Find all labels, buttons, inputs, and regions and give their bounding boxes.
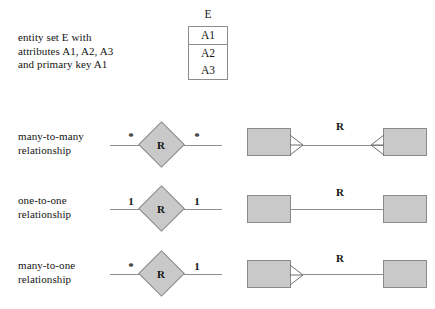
- er-relationship-label-row3: R: [138, 268, 184, 280]
- er-left-cardinality-row2: 1: [124, 195, 138, 207]
- uml-entity-box-left-row3: [247, 260, 291, 288]
- er-left-cardinality-row3: *: [124, 260, 138, 272]
- uml-entity-box-right-row1: [383, 128, 427, 156]
- entity-primary-key-cell: A1: [189, 27, 227, 45]
- uml-relationship-line-row2: [291, 209, 383, 210]
- entity-attribute-box: A1 A2 A3: [188, 26, 228, 80]
- row-caption-one-to-one: one-to-one relationship: [18, 194, 138, 221]
- entity-name-label: E: [187, 8, 229, 20]
- row-caption-many-to-many: many-to-many relationship: [18, 130, 138, 157]
- uml-relationship-label-row2: R: [325, 186, 355, 198]
- row-caption-many-to-one: many-to-one relationship: [18, 259, 138, 286]
- er-right-cardinality-row2: 1: [190, 195, 204, 207]
- uml-relationship-label-row1: R: [325, 120, 355, 132]
- crowsfoot-right-row1: [369, 134, 385, 156]
- crowsfoot-left-row3: [289, 264, 305, 286]
- uml-entity-box-right-row2: [383, 195, 427, 223]
- er-uml-notation-diagram: entity set E with attributes A1, A2, A3 …: [0, 0, 435, 309]
- er-left-cardinality-row1: *: [124, 130, 138, 142]
- uml-entity-box-left-row1: [247, 128, 291, 156]
- er-right-cardinality-row1: *: [190, 130, 204, 142]
- entity-legend-description: entity set E with attributes A1, A2, A3 …: [18, 31, 168, 72]
- uml-entity-box-left-row2: [247, 195, 291, 223]
- uml-entity-box-right-row3: [383, 260, 427, 288]
- uml-relationship-label-row3: R: [325, 252, 355, 264]
- er-right-cardinality-row3: 1: [190, 260, 204, 272]
- er-relationship-label-row1: R: [138, 139, 184, 151]
- uml-relationship-line-row3: [302, 274, 390, 275]
- entity-attribute-cell-2: A3: [189, 62, 227, 79]
- crowsfoot-left-row1: [289, 134, 305, 156]
- er-relationship-label-row2: R: [138, 203, 184, 215]
- entity-attribute-cell-1: A2: [189, 45, 227, 62]
